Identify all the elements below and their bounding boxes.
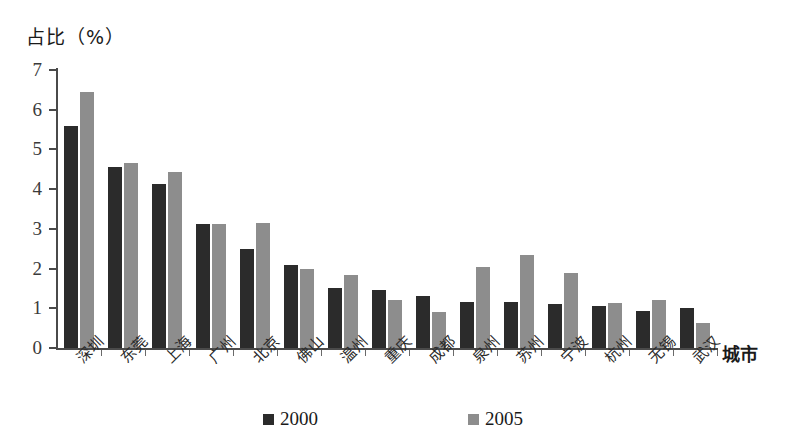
x-tick-mark: [453, 350, 454, 356]
y-tick-mark: [49, 109, 57, 111]
legend-item-2005: 2005: [468, 408, 523, 430]
y-tick-label: 1: [16, 298, 42, 317]
y-tick-mark: [49, 307, 57, 309]
y-tick-label: 3: [16, 219, 42, 238]
bar-2005-广州: [212, 224, 227, 348]
y-tick-mark: [49, 188, 57, 190]
x-tick-mark: [233, 350, 234, 356]
x-axis-title: 城市: [722, 340, 758, 366]
y-tick-mark: [49, 148, 57, 150]
y-axis-title: 占比（%）: [26, 22, 125, 49]
legend-swatch-2000: [263, 414, 274, 425]
bar-2000-佛山: [284, 265, 299, 348]
x-tick-mark: [101, 350, 102, 356]
bar-2000-广州: [196, 224, 211, 348]
bar-2000-深圳: [64, 126, 79, 348]
x-tick-mark: [717, 350, 718, 356]
y-tick-mark: [49, 228, 57, 230]
bar-2005-上海: [168, 172, 183, 348]
chart-legend: 20002005: [0, 408, 786, 430]
bar-2000-武汉: [680, 308, 695, 349]
y-tick-label: 6: [16, 100, 42, 119]
legend-item-2000: 2000: [263, 408, 318, 430]
bar-2005-北京: [256, 223, 271, 348]
x-tick-mark: [497, 350, 498, 356]
y-tick-label: 0: [16, 338, 42, 357]
y-tick-mark: [49, 268, 57, 270]
legend-swatch-2005: [468, 414, 479, 425]
bar-2000-北京: [240, 249, 255, 348]
bar-2000-重庆: [372, 290, 387, 348]
bar-2000-成都: [416, 296, 431, 348]
legend-label-2005: 2005: [485, 408, 523, 430]
bar-2000-温州: [328, 288, 343, 348]
bar-2005-深圳: [80, 92, 95, 348]
x-tick-mark: [541, 350, 542, 356]
y-tick-mark: [49, 347, 57, 349]
y-tick-mark: [49, 69, 57, 71]
plot-area: [57, 70, 717, 348]
x-tick-mark: [277, 350, 278, 356]
y-tick-label: 4: [16, 179, 42, 198]
x-tick-mark: [189, 350, 190, 356]
bar-2000-东莞: [108, 167, 123, 348]
x-tick-mark: [673, 350, 674, 356]
bar-2000-苏州: [504, 302, 519, 348]
x-tick-mark: [321, 350, 322, 356]
x-tick-mark: [145, 350, 146, 356]
y-tick-label: 5: [16, 139, 42, 158]
bar-2005-东莞: [124, 163, 139, 348]
bar-2000-泉州: [460, 302, 475, 348]
x-tick-mark: [629, 350, 630, 356]
legend-label-2000: 2000: [280, 408, 318, 430]
y-tick-label: 2: [16, 259, 42, 278]
bar-2000-上海: [152, 184, 167, 348]
x-tick-mark: [409, 350, 410, 356]
bar-2000-宁波: [548, 304, 563, 348]
bar-chart: 占比（%） 01234567 深圳东莞上海广州北京佛山温州重庆成都泉州苏州宁波杭…: [0, 0, 786, 446]
y-tick-label: 7: [16, 60, 42, 79]
x-tick-mark: [365, 350, 366, 356]
bar-2000-杭州: [592, 306, 607, 348]
bar-2000-无锡: [636, 311, 651, 348]
x-tick-mark: [585, 350, 586, 356]
